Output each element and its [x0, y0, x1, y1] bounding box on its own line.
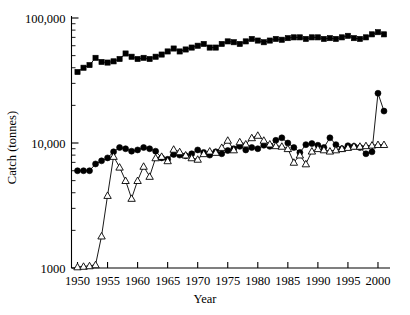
data-point-square [111, 59, 116, 64]
y-axis-tick-label: 1000 [41, 262, 66, 276]
data-point-square [327, 36, 332, 41]
data-point-square [165, 49, 170, 54]
data-point-square [171, 46, 176, 51]
data-point-square [183, 47, 188, 52]
data-point-circle [81, 168, 87, 174]
data-point-square [237, 41, 242, 46]
data-point-square [219, 41, 224, 46]
series-series-circles [75, 90, 387, 173]
data-point-square [333, 36, 338, 41]
series-line [78, 135, 384, 267]
data-point-circle [141, 145, 147, 151]
data-point-square [231, 40, 236, 45]
data-point-circle [303, 142, 309, 148]
data-point-square [279, 37, 284, 42]
data-point-square [189, 45, 194, 50]
data-point-circle [93, 161, 99, 167]
y-axis-title: Catch (tonnes) [5, 88, 20, 208]
data-point-square [297, 35, 302, 40]
x-axis-tick-label: 1980 [245, 274, 270, 288]
data-point-square [153, 54, 158, 59]
data-point-triangle [92, 261, 99, 267]
data-point-circle [369, 149, 375, 155]
data-point-square [363, 35, 368, 40]
data-point-square [309, 35, 314, 40]
x-axis-tick-label: 1975 [215, 274, 240, 288]
data-point-circle [99, 158, 105, 164]
x-axis-tick-label: 1990 [305, 274, 330, 288]
data-point-triangle [146, 173, 153, 179]
data-point-square [249, 36, 254, 41]
series-line [78, 93, 384, 170]
data-point-circle [381, 108, 387, 114]
data-point-square [207, 45, 212, 50]
data-point-circle [279, 135, 285, 141]
x-axis-tick-label: 1995 [335, 274, 360, 288]
data-point-square [321, 36, 326, 41]
data-point-square [369, 32, 374, 37]
data-point-circle [75, 168, 81, 174]
data-point-square [255, 38, 260, 43]
data-point-square [99, 59, 104, 64]
data-point-circle [195, 147, 201, 153]
series-total-catch [75, 30, 387, 75]
data-point-square [225, 39, 230, 44]
data-point-square [129, 54, 134, 59]
data-point-circle [291, 145, 297, 151]
data-point-square [339, 35, 344, 40]
data-point-circle [375, 90, 381, 96]
y-axis-tick-label: 10,000 [31, 137, 65, 151]
data-point-square [291, 35, 296, 40]
data-point-square [243, 39, 248, 44]
x-axis-tick-label: 1965 [155, 274, 180, 288]
data-point-square [285, 36, 290, 41]
data-point-triangle [170, 146, 177, 152]
data-point-triangle [224, 137, 231, 143]
x-axis-tick-label: 1960 [125, 274, 150, 288]
data-point-square [87, 62, 92, 67]
x-axis-tick-label: 1955 [95, 274, 120, 288]
data-point-square [381, 32, 386, 37]
data-point-triangle [104, 192, 111, 198]
data-point-circle [363, 151, 369, 157]
data-point-circle [117, 145, 123, 151]
x-axis-tick-label: 2000 [365, 274, 390, 288]
data-point-circle [147, 146, 153, 152]
data-point-square [93, 55, 98, 60]
data-point-square [201, 41, 206, 46]
data-point-square [147, 56, 152, 61]
y-axis-tick-label: 100,000 [25, 12, 66, 26]
data-point-square [375, 30, 380, 35]
data-point-square [345, 33, 350, 38]
data-point-square [159, 52, 164, 57]
data-point-triangle [140, 163, 147, 169]
data-point-circle [243, 147, 249, 153]
data-point-triangle [302, 160, 309, 166]
data-point-square [351, 36, 356, 41]
data-point-circle [309, 141, 315, 147]
data-point-circle [135, 147, 141, 153]
data-point-triangle [98, 232, 105, 238]
series-series-triangles [74, 132, 388, 270]
data-point-square [267, 38, 272, 43]
data-point-square [81, 65, 86, 70]
data-point-triangle [128, 195, 135, 201]
data-point-square [195, 43, 200, 48]
data-point-triangle [236, 138, 243, 144]
data-point-square [273, 36, 278, 41]
data-point-triangle [254, 132, 261, 138]
data-point-triangle [116, 164, 123, 170]
x-axis-tick-label: 1970 [185, 274, 210, 288]
data-point-square [261, 40, 266, 45]
data-point-square [357, 36, 362, 41]
catch-by-year-line-chart: 100010,000100,00019501955196019651970197… [0, 0, 410, 315]
data-point-triangle [206, 148, 213, 154]
data-point-square [315, 35, 320, 40]
x-axis-tick-label: 1985 [275, 274, 300, 288]
data-point-circle [255, 146, 261, 152]
data-point-square [123, 51, 128, 56]
data-point-square [141, 55, 146, 60]
data-point-circle [123, 146, 129, 152]
data-point-triangle [122, 177, 129, 183]
data-point-square [213, 45, 218, 50]
